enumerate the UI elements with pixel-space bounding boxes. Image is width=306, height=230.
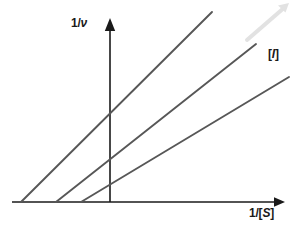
x-axis-label-prefix: 1/[ [249,206,262,220]
x-axis [12,197,285,207]
inhibitor-direction-arrow [247,3,289,40]
y-axis-label-symbol: ν [81,16,87,30]
x-axis-label: 1/[S] [249,207,274,219]
lineweaver-burk-figure: 1/ν 1/[S] [I] [0,0,306,230]
y-axis-label: 1/ν [71,17,87,29]
y-axis-label-prefix: 1/ [71,16,81,30]
plot-canvas [0,0,306,230]
data-line-highest-inhibitor [21,12,212,202]
x-axis-label-suffix: ] [270,206,274,220]
inhibitor-label-suffix: ] [275,47,279,61]
inhibitor-concentration-label: [I] [268,48,279,60]
data-line-no-inhibitor [81,77,289,202]
